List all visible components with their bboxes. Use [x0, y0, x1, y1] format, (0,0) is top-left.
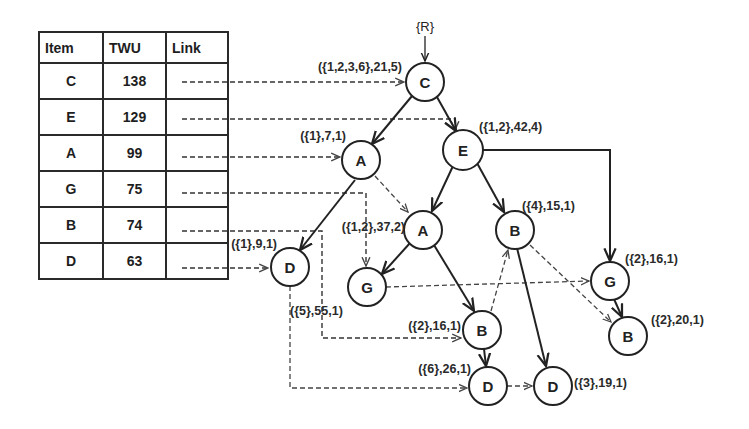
edge-c-a1	[372, 96, 412, 144]
edge-a2-g1	[382, 243, 410, 274]
edge-c-e	[437, 97, 456, 131]
edge-b2-d2	[484, 349, 486, 366]
header-links	[182, 82, 461, 338]
link-b2-b1	[491, 250, 508, 311]
edge-b1-d3	[517, 248, 546, 366]
edge-a1-d1	[300, 180, 355, 250]
tree-node-b2: B ({2},16,1)	[408, 311, 501, 349]
node-annotation: ({1,2},42,4)	[479, 120, 542, 134]
link-a1-a2	[375, 176, 408, 212]
tree-node-c: C ({1,2,3,6},21,5)	[318, 60, 444, 101]
node-annotation: ({5},55,1)	[290, 304, 343, 318]
node-item: B	[510, 222, 521, 239]
tree-node-b3: B ({2},20,1)	[609, 313, 704, 355]
node-annotation: ({4},15,1)	[522, 199, 575, 213]
node-item: E	[458, 142, 468, 159]
node-item: G	[361, 279, 373, 296]
tree-node-a2: A ({1,2},37,2)	[342, 211, 442, 249]
edge-e-a2	[432, 166, 453, 211]
tree-node-a1: A ({1},7,1)	[300, 129, 380, 179]
tree-node-d2: D ({6},26,1)	[418, 362, 507, 405]
node-item: A	[418, 222, 429, 239]
node-item: G	[604, 273, 616, 290]
node-item: D	[285, 259, 296, 276]
node-annotation: ({1},9,1)	[231, 237, 277, 251]
edge-e-b1	[477, 163, 504, 212]
node-annotation: ({2},16,1)	[625, 252, 678, 266]
node-annotation: ({1},7,1)	[300, 129, 346, 143]
tree-node-g2: G ({2},16,1)	[591, 252, 678, 300]
link-g1-g2	[386, 281, 589, 287]
node-annotation: ({6},26,1)	[418, 362, 471, 376]
node-annotation: ({2},20,1)	[651, 313, 704, 327]
node-item: D	[548, 378, 559, 395]
node-annotation: ({1,2,3,6},21,5)	[318, 60, 402, 74]
root-label: {R}	[416, 19, 435, 34]
node-item: B	[477, 322, 488, 339]
node-item: B	[623, 328, 634, 345]
node-annotation: ({1,2},37,2)	[342, 220, 405, 234]
tree-node-d1: D ({1},9,1)	[231, 237, 309, 286]
diagram-canvas: Item TWU Link C 138 E 129 A 99 G 75 B 74	[0, 0, 749, 429]
tree-node-e: E ({1,2},42,4)	[443, 120, 542, 170]
edge-g2-b3	[614, 299, 622, 317]
tree-diagram: {R} C ({1,2,3,6},21,5) A ({1},7,1) E ({1…	[0, 0, 749, 429]
node-annotation: ({3},19,1)	[574, 376, 627, 390]
tree-node-d3: D ({3},19,1)	[534, 367, 627, 405]
node-item: C	[420, 74, 431, 91]
node-item: D	[483, 378, 494, 395]
tree-node-b1: B ({4},15,1)	[496, 199, 575, 249]
node-annotation: ({2},16,1)	[408, 319, 461, 333]
node-item: A	[356, 152, 367, 169]
edge-a2-b2	[434, 245, 474, 311]
